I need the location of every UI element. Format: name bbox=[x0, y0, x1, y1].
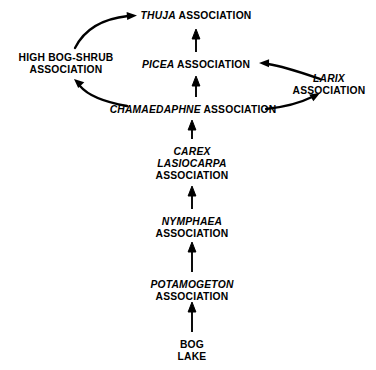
picea-association-text-1: ASSOCIATION bbox=[174, 59, 250, 70]
larix-association-line-1: ASSOCIATION bbox=[293, 85, 366, 97]
thuja-association-text-1: ASSOCIATION bbox=[176, 10, 252, 21]
edge-bog-lake-to-potamogeton bbox=[188, 302, 196, 332]
succession-diagram: THUJA ASSOCIATIONHIGH BOG-SHRUBASSOCIATI… bbox=[0, 0, 376, 370]
picea-association-line-0: PICEA ASSOCIATION bbox=[142, 59, 250, 71]
edge-carex-to-chamaedaphne bbox=[188, 120, 196, 139]
nymphaea-association-line-1: ASSOCIATION bbox=[156, 228, 229, 240]
carex-lasiocarpa-association-line-1: LASIOCARPA bbox=[156, 158, 229, 170]
carex-lasiocarpa-association-line-0: CAREX bbox=[156, 146, 229, 158]
nymphaea-association: NYMPHAEAASSOCIATION bbox=[156, 216, 229, 240]
picea-association-text-0: PICEA bbox=[142, 59, 174, 70]
high-bog-shrub-association-line-0: HIGH BOG-SHRUB bbox=[19, 52, 114, 64]
carex-lasiocarpa-association-line-2: ASSOCIATION bbox=[156, 170, 229, 182]
high-bog-shrub-association-line-1: ASSOCIATION bbox=[19, 64, 114, 76]
nymphaea-association-line-0: NYMPHAEA bbox=[156, 216, 229, 228]
chamaedaphne-association-text-1: ASSOCIATION bbox=[201, 104, 277, 115]
potamogeton-association-line-0: POTAMOGETON bbox=[150, 279, 233, 291]
bog-lake: BOGLAKE bbox=[178, 339, 207, 363]
larix-association-line-0: LARIX bbox=[293, 73, 366, 85]
picea-association: PICEA ASSOCIATION bbox=[142, 59, 250, 71]
thuja-association-line-0: THUJA ASSOCIATION bbox=[141, 10, 252, 22]
carex-lasiocarpa-association: CAREXLASIOCARPAASSOCIATION bbox=[156, 146, 229, 182]
bog-lake-line-1: LAKE bbox=[178, 351, 207, 363]
chamaedaphne-association: CHAMAEDAPHNE ASSOCIATION bbox=[110, 104, 277, 116]
high-bog-shrub-association: HIGH BOG-SHRUBASSOCIATION bbox=[19, 52, 114, 76]
edge-chamaedaphne-to-high-bog-shrub bbox=[74, 79, 127, 106]
edge-nymphaea-to-carex bbox=[188, 186, 196, 209]
potamogeton-association-line-1: ASSOCIATION bbox=[150, 291, 233, 303]
thuja-association: THUJA ASSOCIATION bbox=[141, 10, 252, 22]
edge-high-bog-shrub-to-thuja bbox=[75, 12, 137, 48]
potamogeton-association: POTAMOGETONASSOCIATION bbox=[150, 279, 233, 303]
chamaedaphne-association-text-0: CHAMAEDAPHNE bbox=[110, 104, 201, 115]
bog-lake-line-0: BOG bbox=[178, 339, 207, 351]
chamaedaphne-association-line-0: CHAMAEDAPHNE ASSOCIATION bbox=[110, 104, 277, 116]
thuja-association-text-0: THUJA bbox=[141, 10, 176, 21]
larix-association: LARIXASSOCIATION bbox=[293, 73, 366, 97]
edge-chamaedaphne-to-picea bbox=[192, 76, 200, 97]
edge-picea-to-thuja bbox=[192, 29, 200, 52]
edge-potamogeton-to-nymphaea bbox=[188, 242, 196, 272]
